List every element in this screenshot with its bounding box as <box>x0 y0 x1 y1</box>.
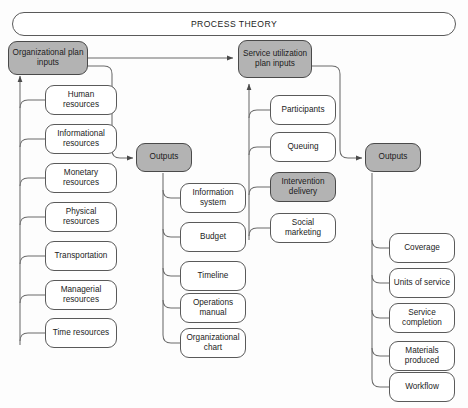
node-managerial-resources-label: Managerial resources <box>46 285 116 306</box>
node-human-resources[interactable]: Human resources <box>45 85 117 115</box>
node-intervention-delivery[interactable]: Intervention delivery <box>270 172 336 202</box>
node-participants[interactable]: Participants <box>270 95 336 125</box>
header-service-utilization-plan-inputs-label: Service utilization plan inputs <box>239 49 311 70</box>
node-timeline[interactable]: Timeline <box>180 261 246 291</box>
node-organizational-chart-label: Organizational chart <box>181 333 245 354</box>
node-physical-resources[interactable]: Physical resources <box>45 202 117 232</box>
node-service-completion-label: Service completion <box>390 308 454 329</box>
node-social-marketing-label: Social marketing <box>271 218 335 239</box>
node-workflow[interactable]: Workflow <box>389 372 455 402</box>
header-service-outputs-label: Outputs <box>376 152 411 163</box>
node-operations-manual[interactable]: Operations manual <box>180 293 246 323</box>
node-queuing[interactable]: Queuing <box>270 132 336 162</box>
node-social-marketing[interactable]: Social marketing <box>270 213 336 243</box>
node-materials-produced-label: Materials produced <box>390 346 454 367</box>
node-informational-resources-label: Informational resources <box>46 129 116 150</box>
node-organizational-chart[interactable]: Organizational chart <box>180 328 246 358</box>
header-organizational-plan-inputs-label: Organizational plan inputs <box>9 48 87 69</box>
node-queuing-label: Queuing <box>284 142 321 153</box>
node-workflow-label: Workflow <box>402 382 442 393</box>
node-service-completion[interactable]: Service completion <box>389 303 455 333</box>
node-time-resources[interactable]: Time resources <box>45 318 117 348</box>
header-organizational-plan-inputs[interactable]: Organizational plan inputs <box>8 41 88 75</box>
node-budget-label: Budget <box>197 232 229 243</box>
node-physical-resources-label: Physical resources <box>46 207 116 228</box>
node-transportation[interactable]: Transportation <box>45 241 117 271</box>
header-organizational-outputs-label: Outputs <box>147 152 182 163</box>
node-information-system-label: Information system <box>181 188 245 209</box>
node-units-of-service[interactable]: Units of service <box>389 268 455 298</box>
node-budget[interactable]: Budget <box>180 222 246 252</box>
node-information-system[interactable]: Information system <box>180 183 246 213</box>
node-monetary-resources-label: Monetary resources <box>46 168 116 189</box>
header-service-outputs[interactable]: Outputs <box>365 143 421 172</box>
header-organizational-outputs[interactable]: Outputs <box>136 143 192 172</box>
node-operations-manual-label: Operations manual <box>181 298 245 319</box>
node-participants-label: Participants <box>278 105 327 116</box>
node-human-resources-label: Human resources <box>46 90 116 111</box>
node-coverage-label: Coverage <box>401 243 443 254</box>
node-transportation-label: Transportation <box>52 251 111 262</box>
node-managerial-resources[interactable]: Managerial resources <box>45 280 117 310</box>
node-materials-produced[interactable]: Materials produced <box>389 341 455 371</box>
node-time-resources-label: Time resources <box>50 328 112 339</box>
banner-process-theory: PROCESS THEORY <box>12 12 456 36</box>
node-units-of-service-label: Units of service <box>391 278 453 289</box>
node-informational-resources[interactable]: Informational resources <box>45 124 117 154</box>
header-service-utilization-plan-inputs[interactable]: Service utilization plan inputs <box>238 40 312 78</box>
node-monetary-resources[interactable]: Monetary resources <box>45 163 117 193</box>
node-intervention-delivery-label: Intervention delivery <box>271 177 335 198</box>
process-theory-diagram: PROCESS THEORY Organizational plan input… <box>0 0 468 408</box>
banner-label: PROCESS THEORY <box>188 19 280 30</box>
node-timeline-label: Timeline <box>195 271 232 282</box>
node-coverage[interactable]: Coverage <box>389 233 455 263</box>
